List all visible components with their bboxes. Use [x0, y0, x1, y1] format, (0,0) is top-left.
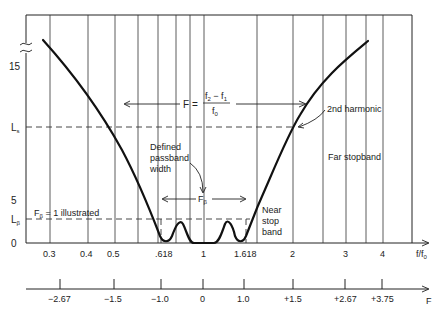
svg-text:0.5: 0.5: [107, 249, 120, 259]
svg-text:+2.67: +2.67: [334, 294, 357, 304]
bandwidth-formula: F = f2 − f1 f0: [124, 91, 306, 117]
y-tick-ls: Ls: [11, 122, 20, 134]
svg-text:.618: .618: [155, 249, 173, 259]
svg-text:Near: Near: [262, 205, 282, 215]
svg-text:2: 2: [290, 249, 295, 259]
svg-text:−1.5: −1.5: [104, 294, 122, 304]
svg-text:0: 0: [200, 294, 205, 304]
formula-denominator: f0: [212, 106, 219, 117]
near-stopband-label: Near stop band: [262, 205, 282, 237]
f-axis-title: F: [426, 296, 432, 306]
ratio-axis-labels: 0.3 0.4 0.5 .618 1 1.618 2 3 4 f/f0: [43, 249, 428, 260]
y-tick-0: 0: [11, 238, 17, 249]
svg-text:+3.75: +3.75: [371, 294, 394, 304]
attenuation-diagram: 15 Ls 5 Lβ 0 F = f2 − f1 f0 2nd harmonic…: [0, 0, 443, 313]
y-tick-lbeta: Lβ: [11, 214, 21, 226]
passband-pointer: [190, 163, 203, 192]
svg-text:0.4: 0.4: [80, 249, 93, 259]
svg-text:0.3: 0.3: [43, 249, 56, 259]
svg-text:3: 3: [343, 249, 348, 259]
f-beta-label: Fβ: [198, 194, 208, 205]
ratio-axis-title: f/f0: [416, 249, 428, 260]
svg-text:band: band: [262, 227, 282, 237]
svg-text:width: width: [149, 164, 171, 174]
svg-text:Defined: Defined: [150, 142, 181, 152]
y-axis-labels: 15 Ls 5 Lβ 0: [9, 61, 21, 249]
svg-text:−1.0: −1.0: [151, 294, 169, 304]
f-axis: −2.67 −1.5 −1.0 0 1.0 +1.5 +2.67 +3.75 F: [26, 279, 432, 306]
formula-lhs: F =: [183, 99, 198, 110]
f-beta-illustrated-label: Fβ = 1 illustrated: [34, 208, 99, 219]
harmonic-pointer: [299, 110, 325, 127]
second-harmonic-label: 2nd harmonic: [327, 104, 382, 114]
axis-break-icon: [20, 43, 32, 45]
svg-text:−2.67: −2.67: [48, 294, 71, 304]
defined-passband-label: Defined passband width: [149, 142, 206, 193]
y-tick-15: 15: [9, 61, 21, 72]
svg-text:1.0: 1.0: [237, 294, 250, 304]
svg-text:1.618: 1.618: [234, 249, 257, 259]
vertical-gridlines: [50, 15, 383, 243]
axis-break-icon: [20, 50, 32, 52]
svg-text:passband: passband: [150, 153, 189, 163]
svg-text:1: 1: [201, 249, 206, 259]
formula-numerator: f2 − f1: [205, 91, 228, 102]
far-stopband-label: Far stopband: [328, 152, 381, 162]
y-tick-5: 5: [11, 195, 17, 206]
svg-text:4: 4: [380, 249, 385, 259]
svg-text:+1.5: +1.5: [284, 294, 302, 304]
svg-text:stop: stop: [262, 216, 279, 226]
